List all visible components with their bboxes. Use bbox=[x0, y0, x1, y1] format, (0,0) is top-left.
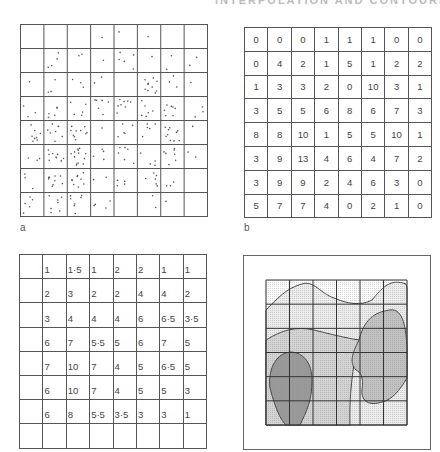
node-value: 4 bbox=[91, 313, 96, 324]
node-cell: 7 bbox=[90, 375, 113, 399]
data-point bbox=[52, 185, 54, 187]
data-point bbox=[61, 136, 63, 138]
count-cell: 0 bbox=[245, 28, 268, 52]
node-value: 10 bbox=[68, 385, 79, 396]
data-point bbox=[168, 129, 170, 131]
node-cell: 4 bbox=[113, 351, 136, 375]
data-point bbox=[73, 184, 75, 186]
panel-d-contour-map bbox=[243, 255, 431, 450]
data-point bbox=[57, 202, 59, 204]
data-point bbox=[118, 59, 120, 61]
node-cell: 2 bbox=[136, 255, 159, 279]
node-cell: 3 bbox=[43, 303, 66, 327]
data-point bbox=[54, 79, 56, 81]
data-point bbox=[93, 156, 95, 158]
count-cell: 8 bbox=[338, 99, 361, 123]
count-cell: 1 bbox=[315, 51, 338, 75]
data-point bbox=[29, 206, 31, 208]
data-point bbox=[154, 160, 156, 162]
node-row: 61074553 bbox=[20, 375, 207, 399]
count-cell: 0 bbox=[338, 75, 361, 99]
page-header-clipped: INTERPOLATION AND CONTOURING bbox=[215, 0, 440, 4]
node-cell bbox=[20, 327, 43, 351]
data-point bbox=[24, 173, 26, 175]
data-point bbox=[169, 81, 171, 83]
data-point bbox=[164, 110, 166, 112]
count-cell: 0 bbox=[245, 51, 268, 75]
data-point bbox=[75, 213, 77, 215]
node-cell: 2 bbox=[90, 279, 113, 303]
data-point bbox=[51, 65, 53, 67]
count-cell: 10 bbox=[385, 123, 408, 147]
node-value: 1 bbox=[185, 264, 190, 275]
data-point bbox=[93, 179, 95, 181]
data-point bbox=[105, 177, 107, 179]
data-point bbox=[124, 147, 126, 149]
node-cell: 4 bbox=[66, 303, 89, 327]
data-point bbox=[151, 86, 153, 88]
node-cell: 3 bbox=[183, 375, 206, 399]
node-value: 5 bbox=[115, 337, 120, 348]
node-cell bbox=[20, 400, 43, 424]
data-point bbox=[173, 181, 175, 183]
node-cell: 7 bbox=[66, 327, 89, 351]
data-point bbox=[133, 54, 135, 56]
node-cell: 5 bbox=[183, 327, 206, 351]
data-point bbox=[80, 197, 82, 199]
data-point bbox=[56, 58, 58, 60]
data-point bbox=[165, 201, 167, 203]
node-cell bbox=[20, 303, 43, 327]
node-cell: 6·5 bbox=[160, 303, 183, 327]
count-cell: 5 bbox=[268, 99, 291, 123]
node-value: 1 bbox=[44, 264, 49, 275]
node-value: 4 bbox=[115, 361, 120, 372]
data-point bbox=[149, 128, 151, 130]
count-cell: 3 bbox=[291, 75, 314, 99]
data-point bbox=[108, 101, 110, 103]
count-cell: 7 bbox=[385, 146, 408, 170]
count-cell: 4 bbox=[361, 146, 384, 170]
count-cell: 9 bbox=[291, 170, 314, 194]
count-cell: 4 bbox=[315, 146, 338, 170]
count-cell: 10 bbox=[291, 123, 314, 147]
node-cell: 6 bbox=[43, 400, 66, 424]
data-point bbox=[63, 158, 65, 160]
data-point bbox=[194, 116, 196, 118]
data-point bbox=[71, 126, 73, 128]
node-cell: 5 bbox=[113, 327, 136, 351]
count-cell: 7 bbox=[268, 194, 291, 218]
node-cell: 3·5 bbox=[183, 303, 206, 327]
data-point bbox=[132, 125, 134, 127]
node-row: 2322442 bbox=[20, 279, 207, 303]
count-cell: 6 bbox=[361, 170, 384, 194]
node-cell: 3 bbox=[160, 400, 183, 424]
data-point bbox=[23, 105, 25, 107]
data-point bbox=[94, 82, 96, 84]
data-point bbox=[170, 185, 172, 187]
data-point bbox=[47, 67, 49, 69]
data-point bbox=[83, 183, 85, 185]
data-point bbox=[178, 140, 180, 142]
data-point bbox=[34, 130, 36, 132]
node-cell: 5 bbox=[183, 351, 206, 375]
node-cell: 6·5 bbox=[160, 351, 183, 375]
data-point bbox=[120, 104, 122, 106]
count-cell: 4 bbox=[315, 194, 338, 218]
node-value: 1·5 bbox=[68, 264, 82, 275]
data-point bbox=[48, 178, 50, 180]
node-value: 4 bbox=[115, 313, 120, 324]
data-point bbox=[124, 159, 126, 161]
data-point bbox=[165, 115, 167, 117]
count-cell: 1 bbox=[361, 51, 384, 75]
data-point bbox=[70, 195, 72, 197]
data-point bbox=[124, 183, 126, 185]
node-value: 3 bbox=[138, 409, 143, 420]
data-point bbox=[119, 99, 121, 101]
data-point bbox=[202, 106, 204, 108]
data-point bbox=[155, 183, 157, 185]
count-cell: 13 bbox=[291, 146, 314, 170]
data-point bbox=[55, 131, 57, 133]
data-point bbox=[122, 123, 124, 125]
count-cell: 2 bbox=[408, 146, 431, 170]
data-point bbox=[127, 149, 129, 151]
